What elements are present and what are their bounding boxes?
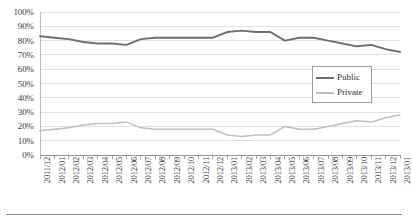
legend-label-private: Private — [337, 88, 363, 97]
x-tick-label: 2013/04 — [274, 157, 283, 183]
legend-item-private: Private — [316, 85, 368, 100]
x-tick-label: 2012/12 — [216, 157, 225, 183]
x-tick-label: 2013/07 — [317, 157, 326, 183]
x-tick-label: 2012/10 — [187, 157, 196, 183]
x-tick-label: 2013/09 — [346, 157, 355, 183]
y-tick-label: 0% — [22, 151, 34, 160]
legend-swatch-public — [316, 77, 334, 79]
y-tick-label: 80% — [18, 36, 34, 45]
y-tick-label: 50% — [18, 79, 34, 88]
y-tick-label: 40% — [18, 93, 34, 102]
y-tick-label: 100% — [13, 8, 34, 17]
y-tick-label: 20% — [18, 122, 34, 131]
x-tick-label: 2012/05 — [115, 157, 124, 183]
x-tick-label: 2013/03 — [259, 157, 268, 183]
x-tick-label: 2013/06 — [302, 157, 311, 183]
y-axis: 0%10%20%30%40%50%60%70%80%90%100% — [0, 12, 36, 155]
x-tick-label: 2011/12 — [43, 157, 52, 183]
y-tick-label: 70% — [18, 50, 34, 59]
x-tick-label: 2012/02 — [72, 157, 81, 183]
x-tick-label: 2012/09 — [173, 157, 182, 183]
x-tick-label: 2013/12 — [389, 157, 398, 183]
x-tick-label: 2013/05 — [288, 157, 297, 183]
x-tick-label: 2013/01 — [403, 157, 412, 183]
legend-swatch-private — [316, 92, 334, 94]
y-tick-label: 60% — [18, 65, 34, 74]
legend-item-public: Public — [316, 70, 368, 85]
x-tick-label: 2012/07 — [144, 157, 153, 183]
x-tick-label: 2013/11 — [374, 157, 383, 183]
x-tick-label: 2013/02 — [245, 157, 254, 183]
figure-bottom-rule — [6, 214, 402, 215]
x-tick-label: 2013/10 — [360, 157, 369, 183]
x-tick-label: 2012/03 — [86, 157, 95, 183]
x-tick-label: 2012/06 — [130, 157, 139, 183]
x-tick-label: 2012/08 — [158, 157, 167, 183]
x-tick-label: 2013/01 — [230, 157, 239, 183]
x-tick-label: 2012/11 — [202, 157, 211, 183]
x-axis: 2011/122012/012012/022012/032012/042012/… — [40, 157, 400, 215]
x-tick-label: 2012/01 — [58, 157, 67, 183]
x-tick-label: 2012/04 — [101, 157, 110, 183]
y-tick-label: 90% — [18, 22, 34, 31]
y-tick-label: 30% — [18, 108, 34, 117]
x-tick-label: 2013/08 — [331, 157, 340, 183]
chart-legend: Public Private — [312, 66, 372, 103]
y-tick-label: 10% — [18, 136, 34, 145]
legend-label-public: Public — [337, 73, 360, 82]
